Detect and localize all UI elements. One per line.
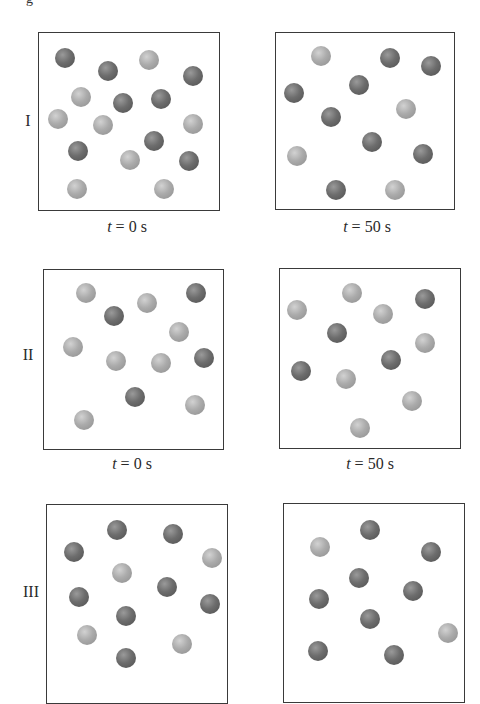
- light-particle-icon: [172, 634, 192, 654]
- light-particle-icon: [287, 300, 307, 320]
- light-particle-icon: [106, 351, 126, 371]
- light-particle-icon: [385, 180, 405, 200]
- dark-particle-icon: [183, 66, 203, 86]
- dark-particle-icon: [349, 75, 369, 95]
- dark-particle-icon: [107, 520, 127, 540]
- light-particle-icon: [396, 99, 416, 119]
- light-particle-icon: [63, 337, 83, 357]
- dark-particle-icon: [362, 132, 382, 152]
- dark-particle-icon: [200, 594, 220, 614]
- dark-particle-icon: [113, 93, 133, 113]
- dark-particle-icon: [308, 641, 328, 661]
- dark-particle-icon: [69, 587, 89, 607]
- dark-particle-icon: [326, 180, 346, 200]
- dark-particle-icon: [64, 542, 84, 562]
- dark-particle-icon: [421, 56, 441, 76]
- top-text-fragment: g: [26, 0, 34, 7]
- dark-particle-icon: [151, 89, 171, 109]
- dark-particle-icon: [68, 141, 88, 161]
- light-particle-icon: [154, 179, 174, 199]
- light-particle-icon: [342, 283, 362, 303]
- light-particle-icon: [415, 333, 435, 353]
- dark-particle-icon: [360, 609, 380, 629]
- dark-particle-icon: [309, 589, 329, 609]
- dark-particle-icon: [415, 289, 435, 309]
- dark-particle-icon: [380, 48, 400, 68]
- light-particle-icon: [169, 322, 189, 342]
- time-value: = 50 s: [348, 218, 391, 235]
- light-particle-icon: [120, 150, 140, 170]
- light-particle-icon: [139, 50, 159, 70]
- time-label: t = 50 s: [346, 455, 394, 473]
- row-label-i: I: [25, 112, 30, 130]
- light-particle-icon: [48, 109, 68, 129]
- dark-particle-icon: [104, 306, 124, 326]
- dark-particle-icon: [194, 348, 214, 368]
- light-particle-icon: [373, 304, 393, 324]
- light-particle-icon: [77, 625, 97, 645]
- dark-particle-icon: [360, 520, 380, 540]
- time-label: t = 50 s: [343, 218, 391, 236]
- dark-particle-icon: [349, 568, 369, 588]
- light-particle-icon: [311, 46, 331, 66]
- time-label: t = 0 s: [112, 455, 152, 473]
- row-label-iii: III: [23, 583, 39, 601]
- dark-particle-icon: [144, 131, 164, 151]
- dark-particle-icon: [403, 581, 423, 601]
- time-value: = 0 s: [112, 218, 147, 235]
- time-value: = 50 s: [351, 455, 394, 472]
- dark-particle-icon: [284, 83, 304, 103]
- light-particle-icon: [287, 146, 307, 166]
- dark-particle-icon: [125, 387, 145, 407]
- light-particle-icon: [76, 283, 96, 303]
- light-particle-icon: [74, 410, 94, 430]
- dark-particle-icon: [421, 542, 441, 562]
- light-particle-icon: [438, 623, 458, 643]
- light-particle-icon: [310, 537, 330, 557]
- light-particle-icon: [336, 369, 356, 389]
- light-particle-icon: [71, 87, 91, 107]
- dark-particle-icon: [116, 648, 136, 668]
- light-particle-icon: [183, 114, 203, 134]
- light-particle-icon: [185, 395, 205, 415]
- light-particle-icon: [93, 115, 113, 135]
- dark-particle-icon: [321, 107, 341, 127]
- dark-particle-icon: [55, 48, 75, 68]
- dark-particle-icon: [157, 577, 177, 597]
- dark-particle-icon: [413, 144, 433, 164]
- dark-particle-icon: [291, 361, 311, 381]
- light-particle-icon: [402, 391, 422, 411]
- dark-particle-icon: [186, 283, 206, 303]
- light-particle-icon: [151, 353, 171, 373]
- dark-particle-icon: [179, 151, 199, 171]
- dark-particle-icon: [327, 323, 347, 343]
- dark-particle-icon: [381, 350, 401, 370]
- dark-particle-icon: [116, 606, 136, 626]
- dark-particle-icon: [163, 524, 183, 544]
- dark-particle-icon: [384, 645, 404, 665]
- light-particle-icon: [67, 179, 87, 199]
- dark-particle-icon: [98, 61, 118, 81]
- time-label: t = 0 s: [107, 218, 147, 236]
- light-particle-icon: [202, 548, 222, 568]
- time-value: = 0 s: [117, 455, 152, 472]
- row-label-ii: II: [23, 346, 34, 364]
- light-particle-icon: [350, 418, 370, 438]
- light-particle-icon: [112, 563, 132, 583]
- light-particle-icon: [137, 293, 157, 313]
